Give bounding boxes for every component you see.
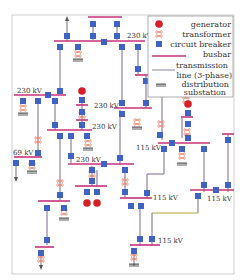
arrow-up-icon xyxy=(65,16,69,21)
legend-label-busbar: busbar xyxy=(203,50,231,59)
voltage-label: 115 kV xyxy=(153,194,179,202)
generator-icon xyxy=(155,20,163,28)
legend-label-circuit-breaker: circuit breaker xyxy=(170,40,231,49)
voltage-label: 230 kV xyxy=(92,123,118,131)
arrow-down-icon xyxy=(14,177,18,182)
voltage-label: 115 kV xyxy=(158,237,184,245)
legend-label-transformer: transformer xyxy=(182,30,231,39)
legend-label-substation: substation xyxy=(184,88,226,97)
legend-label-line-3phase: line (3-phase) xyxy=(177,71,232,80)
legend-label-generator: generator xyxy=(191,20,231,29)
voltage-label: 69 kV xyxy=(13,149,34,157)
voltage-label: 230 kV xyxy=(94,102,120,110)
arrow-down-icon xyxy=(39,265,43,270)
voltage-label: 230 kV xyxy=(76,156,102,164)
voltage-label: 115 kV xyxy=(207,195,233,203)
power-grid-diagram: 230 kV 230 kV 230 kV 230 kV 230 kV 69 kV… xyxy=(0,0,245,280)
voltage-label: 115 kV xyxy=(136,144,162,152)
legend-label-transmission: transmission xyxy=(176,61,228,70)
legend: generator transformer circuit breaker bu… xyxy=(148,16,233,97)
circuit-breaker-icon xyxy=(156,41,162,47)
voltage-label: 230 kV xyxy=(17,87,43,95)
